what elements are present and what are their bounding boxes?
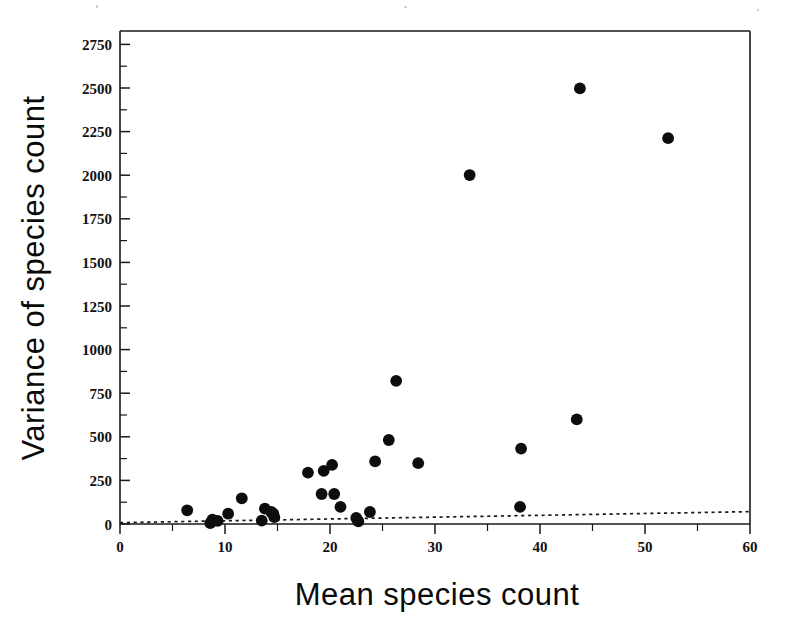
x-tick-label: 20 [323, 539, 338, 555]
data-point [571, 414, 583, 426]
x-axis-title: Mean species count [295, 577, 580, 612]
y-tick-label: 2000 [82, 168, 112, 184]
data-point [369, 456, 381, 468]
x-tick-label: 10 [218, 539, 233, 555]
data-point [364, 506, 376, 518]
data-point [222, 508, 234, 520]
x-tick-label: 50 [638, 539, 653, 555]
axis-frame [120, 31, 750, 524]
scatter-plot-figure: 0 250 500 750 1000 1250 1500 1750 2000 2… [0, 0, 790, 624]
y-axis-tick-labels: 0 250 500 750 1000 1250 1500 1750 2000 2… [82, 37, 112, 533]
data-point [514, 501, 526, 513]
data-point [181, 504, 193, 516]
data-point [326, 459, 338, 471]
scan-speckles [96, 5, 759, 11]
y-tick-label: 2500 [82, 81, 112, 97]
y-tick-label: 1000 [82, 342, 112, 358]
y-tick-label: 0 [105, 517, 113, 533]
data-point [662, 132, 674, 144]
data-point [212, 515, 224, 527]
data-point [383, 434, 395, 446]
data-point [268, 511, 280, 523]
data-point [335, 501, 347, 513]
data-point [515, 443, 527, 455]
y-tick-label: 500 [90, 429, 113, 445]
y-tick-label: 250 [90, 473, 113, 489]
data-point [316, 488, 328, 500]
y-tick-label: 2750 [82, 37, 112, 53]
data-point [412, 457, 424, 469]
data-point [256, 515, 268, 527]
x-tick-label: 0 [116, 539, 124, 555]
x-tick-label: 60 [743, 539, 758, 555]
data-point [574, 83, 586, 95]
y-tick-label: 750 [90, 386, 113, 402]
data-point [352, 516, 364, 528]
x-tick-label: 40 [533, 539, 548, 555]
y-tick-label: 1750 [82, 211, 112, 227]
data-point [328, 488, 340, 500]
x-axis-tick-labels: 0 10 20 30 40 50 60 [116, 539, 757, 555]
data-point [464, 169, 476, 181]
y-axis-ticks [120, 44, 130, 524]
scatter-points-layer [181, 83, 674, 529]
x-tick-label: 30 [428, 539, 443, 555]
data-point [236, 492, 248, 504]
y-tick-label: 1250 [82, 299, 112, 315]
y-tick-label: 2250 [82, 124, 112, 140]
data-point [302, 467, 314, 479]
plot-canvas: 0 250 500 750 1000 1250 1500 1750 2000 2… [0, 0, 790, 624]
data-point [390, 375, 402, 387]
y-axis-title: Variance of species count [16, 95, 51, 460]
y-tick-label: 1500 [82, 255, 112, 271]
